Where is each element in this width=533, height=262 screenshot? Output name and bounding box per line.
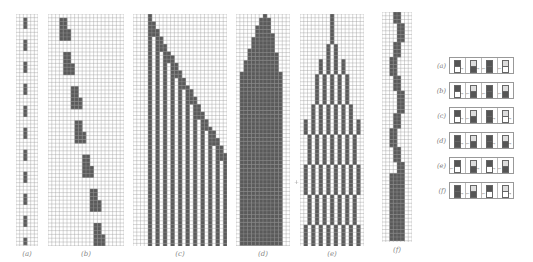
direction-arrow-icon: → (460, 116, 463, 121)
evolution-panel-e (300, 14, 364, 246)
direction-arrow-icon: → (460, 191, 463, 196)
rule-cell: → (450, 183, 466, 198)
panel-label-c: (c) (160, 250, 200, 258)
rule-cell: → (466, 158, 482, 173)
rule-cell: ← (482, 58, 498, 73)
rule-cell: → (482, 158, 498, 173)
direction-arrow-icon: → (476, 66, 479, 71)
direction-arrow-icon: → (508, 141, 511, 146)
rule-label: (a) (420, 62, 449, 70)
rule-cell: → (450, 133, 466, 148)
direction-arrow-icon: → (508, 116, 511, 121)
direction-arrow-icon: ← (498, 166, 501, 171)
rule-label: (b) (420, 87, 449, 95)
panel-label-a: (a) (7, 250, 47, 258)
direction-arrow-icon: ← (482, 91, 485, 96)
direction-arrow-icon: ← (466, 191, 469, 196)
rule-cell: → (498, 183, 513, 198)
direction-arrow-icon: ← (466, 116, 469, 121)
direction-arrow-icon: → (460, 91, 463, 96)
rule-cells: →←→→ (449, 107, 514, 124)
plus-mark: + (294, 178, 299, 185)
direction-arrow-icon: ← (498, 66, 501, 71)
direction-arrow-icon: → (508, 191, 511, 196)
rule-cell: ← (466, 108, 482, 123)
cell-grid (133, 14, 227, 246)
direction-arrow-icon: ← (482, 191, 485, 196)
direction-arrow-icon: → (492, 116, 495, 121)
tape-cell-square (486, 91, 493, 98)
rule-cells: →→←← (449, 57, 514, 74)
evolution-panel-f (382, 12, 412, 242)
cell-grid (382, 12, 412, 242)
direction-arrow-icon: ← (466, 91, 469, 96)
rule-label: (d) (420, 137, 449, 145)
rule-cell: → (466, 58, 482, 73)
rule-cells: →←←→ (449, 182, 514, 199)
direction-arrow-icon: → (492, 141, 495, 146)
rule-cell: → (450, 58, 466, 73)
rule-cells: →←←← (449, 82, 514, 99)
cell-grid (16, 14, 38, 246)
rule-cell: ← (498, 58, 513, 73)
tape-cell-square (470, 141, 477, 148)
direction-arrow-icon: → (460, 141, 463, 146)
tape-cell-square (502, 166, 509, 173)
cell-grid (300, 14, 364, 246)
rule-cell: → (450, 108, 466, 123)
rule-cells: ←→→← (449, 157, 514, 174)
rule-cells: →←→→ (449, 132, 514, 149)
tape-cell-square (502, 91, 509, 98)
rule-cell: → (482, 133, 498, 148)
rule-cell: ← (498, 83, 513, 98)
rule-cell: ← (466, 133, 482, 148)
direction-arrow-icon: → (492, 166, 495, 171)
rule-cell: ← (498, 158, 513, 173)
direction-arrow-icon: ← (482, 66, 485, 71)
rule-row-3: (d)→←→→ (420, 132, 514, 149)
rule-cell: ← (466, 83, 482, 98)
evolution-panel-d (236, 14, 290, 246)
direction-arrow-icon: ← (450, 166, 453, 171)
rule-cell: → (498, 133, 513, 148)
cell-grid (48, 14, 124, 246)
tape-cell-square (502, 66, 509, 73)
tape-cell-square (470, 91, 477, 98)
rule-row-5: (f)→←←→ (420, 182, 514, 199)
panel-label-e: (e) (312, 250, 352, 258)
panel-label-d: (d) (243, 250, 283, 258)
panel-label-f: (f) (377, 246, 417, 254)
rule-cell: ← (450, 158, 466, 173)
rule-label: (c) (420, 112, 449, 120)
direction-arrow-icon: → (460, 66, 463, 71)
tape-cell-square (470, 116, 477, 123)
rule-row-1: (b)→←←← (420, 82, 514, 99)
evolution-panel-b (48, 14, 124, 246)
direction-arrow-icon: → (476, 166, 479, 171)
cell-grid (236, 14, 290, 246)
rule-label: (e) (420, 162, 449, 170)
rule-cell: → (450, 83, 466, 98)
rule-cell: ← (466, 183, 482, 198)
rule-row-0: (a)→→←← (420, 57, 514, 74)
rule-cell: ← (482, 183, 498, 198)
tape-cell-square (486, 66, 493, 73)
rule-label: (f) (420, 187, 449, 195)
panel-label-b: (b) (66, 250, 106, 258)
direction-arrow-icon: ← (498, 91, 501, 96)
rule-row-4: (e)←→→← (420, 157, 514, 174)
tape-cell-square (470, 191, 477, 198)
evolution-panel-a (16, 14, 38, 246)
rule-cell: ← (482, 83, 498, 98)
rule-cell: → (482, 108, 498, 123)
direction-arrow-icon: ← (466, 141, 469, 146)
evolution-panel-c (133, 14, 227, 246)
rule-cell: → (498, 108, 513, 123)
rule-row-2: (c)→←→→ (420, 107, 514, 124)
tape-cell-square (486, 191, 493, 198)
tape-cell-square (454, 166, 461, 173)
